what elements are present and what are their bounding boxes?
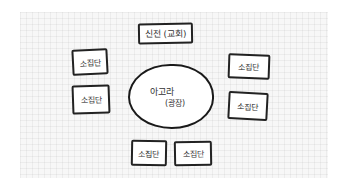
agora-label: 아고라 (광장) [150, 86, 194, 110]
small-group-box-bottom-right: 소집단 [174, 141, 212, 167]
agora-label-line1: 아고라 [150, 86, 194, 98]
temple-box: 신전 (교회) [138, 23, 193, 45]
small-group-box-right-top: 소집단 [228, 53, 271, 79]
temple-label: 신전 (교회) [144, 27, 186, 41]
agora-label-line2: (광장) [150, 98, 194, 110]
small-group-label: 소집단 [182, 148, 203, 159]
small-group-box-right-bottom: 소집단 [227, 91, 268, 121]
small-group-label: 소집단 [80, 94, 101, 106]
small-group-box-left-bottom: 소집단 [72, 84, 111, 114]
small-group-label: 소집단 [238, 61, 259, 73]
small-group-box-bottom-left: 소집단 [131, 140, 167, 167]
small-group-label: 소집단 [237, 100, 259, 112]
small-group-box-left-top: 소집단 [71, 48, 108, 76]
small-group-label: 소집단 [79, 56, 101, 68]
small-group-label: 소집단 [138, 147, 159, 158]
